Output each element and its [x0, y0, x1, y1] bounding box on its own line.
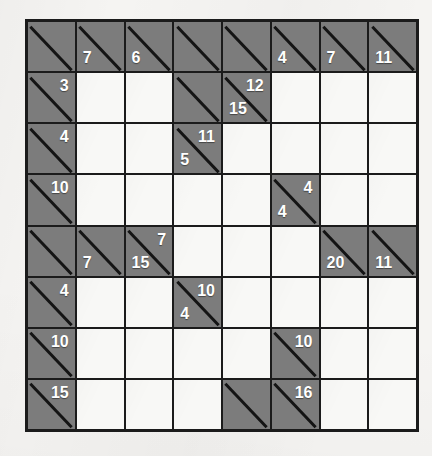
entry-cell[interactable]: [272, 227, 319, 276]
across-clue-number: 10: [197, 283, 215, 299]
clue-diagonal-divider: [30, 230, 73, 275]
entry-value: [369, 124, 416, 173]
entry-value: [369, 73, 416, 122]
clue-cell: 10: [28, 175, 75, 224]
clue-cell: 3: [28, 73, 75, 122]
clue-cell: [28, 227, 75, 276]
clue-diagonal-divider: [225, 383, 268, 428]
entry-value: [223, 124, 270, 173]
clue-cell: 16: [272, 380, 319, 429]
clue-cell: 115: [174, 124, 221, 173]
entry-cell[interactable]: [77, 175, 124, 224]
clue-cell: 4: [28, 278, 75, 327]
entry-cell[interactable]: [174, 329, 221, 378]
entry-cell[interactable]: [77, 124, 124, 173]
entry-cell[interactable]: [223, 329, 270, 378]
across-clue-number: 12: [246, 78, 264, 94]
kakuro-grid: 764711312154115104477152011410410101516: [25, 19, 419, 432]
entry-cell[interactable]: [126, 124, 173, 173]
across-clue-number: 4: [60, 129, 69, 145]
entry-cell[interactable]: [174, 227, 221, 276]
entry-cell[interactable]: [223, 278, 270, 327]
entry-value: [77, 175, 124, 224]
entry-value: [321, 380, 368, 429]
entry-cell[interactable]: [321, 278, 368, 327]
clue-cell: 7: [321, 22, 368, 71]
clue-cell: 4: [28, 124, 75, 173]
entry-value: [223, 175, 270, 224]
entry-value: [77, 329, 124, 378]
entry-cell[interactable]: [321, 73, 368, 122]
entry-value: [126, 73, 173, 122]
entry-cell[interactable]: [126, 175, 173, 224]
entry-cell[interactable]: [369, 175, 416, 224]
clue-cell: 1215: [223, 73, 270, 122]
entry-cell[interactable]: [369, 124, 416, 173]
entry-cell[interactable]: [321, 329, 368, 378]
entry-value: [126, 329, 173, 378]
down-clue-number: 11: [375, 255, 392, 271]
clue-cell: 20: [321, 227, 368, 276]
entry-cell[interactable]: [126, 278, 173, 327]
entry-cell[interactable]: [126, 380, 173, 429]
entry-cell[interactable]: [77, 278, 124, 327]
down-clue-number: 11: [375, 50, 392, 66]
entry-value: [272, 73, 319, 122]
down-clue-number: 15: [132, 255, 150, 271]
entry-value: [272, 227, 319, 276]
down-clue-number: 7: [327, 50, 336, 66]
entry-cell[interactable]: [321, 175, 368, 224]
entry-cell[interactable]: [369, 73, 416, 122]
clue-cell: [174, 22, 221, 71]
entry-cell[interactable]: [369, 329, 416, 378]
across-clue-number: 7: [157, 232, 166, 248]
clue-cell: [223, 380, 270, 429]
entry-value: [126, 278, 173, 327]
entry-cell[interactable]: [321, 124, 368, 173]
entry-cell[interactable]: [174, 380, 221, 429]
entry-cell[interactable]: [272, 73, 319, 122]
down-clue-number: 7: [83, 50, 92, 66]
entry-cell[interactable]: [126, 73, 173, 122]
entry-cell[interactable]: [369, 380, 416, 429]
clue-diagonal-divider: [225, 25, 268, 70]
across-clue-number: 3: [60, 78, 69, 94]
entry-cell[interactable]: [369, 278, 416, 327]
down-clue-number: 15: [229, 101, 247, 117]
entry-value: [321, 73, 368, 122]
entry-value: [223, 227, 270, 276]
clue-cell: 10: [28, 329, 75, 378]
entry-cell[interactable]: [126, 329, 173, 378]
down-clue-number: 4: [278, 204, 287, 220]
entry-value: [126, 175, 173, 224]
entry-value: [77, 380, 124, 429]
down-clue-number: 20: [327, 255, 345, 271]
entry-value: [77, 124, 124, 173]
entry-value: [174, 175, 221, 224]
clue-cell: 11: [369, 227, 416, 276]
clue-cell: [28, 22, 75, 71]
across-clue-number: 10: [51, 180, 69, 196]
entry-cell[interactable]: [77, 73, 124, 122]
clue-cell: 104: [174, 278, 221, 327]
entry-cell[interactable]: [223, 175, 270, 224]
entry-cell[interactable]: [272, 124, 319, 173]
across-clue-number: 10: [295, 334, 313, 350]
across-clue-number: 15: [51, 385, 69, 401]
entry-cell[interactable]: [77, 380, 124, 429]
down-clue-number: 7: [83, 255, 92, 271]
entry-cell[interactable]: [223, 227, 270, 276]
across-clue-number: 16: [295, 385, 313, 401]
clue-cell: 10: [272, 329, 319, 378]
clue-cell: 7: [77, 227, 124, 276]
across-clue-number: 10: [51, 334, 69, 350]
clue-cell: [223, 22, 270, 71]
clue-cell: 11: [369, 22, 416, 71]
entry-value: [174, 329, 221, 378]
entry-cell[interactable]: [272, 278, 319, 327]
entry-cell[interactable]: [174, 175, 221, 224]
entry-cell[interactable]: [223, 124, 270, 173]
clue-cell: 15: [28, 380, 75, 429]
entry-cell[interactable]: [321, 380, 368, 429]
entry-cell[interactable]: [77, 329, 124, 378]
